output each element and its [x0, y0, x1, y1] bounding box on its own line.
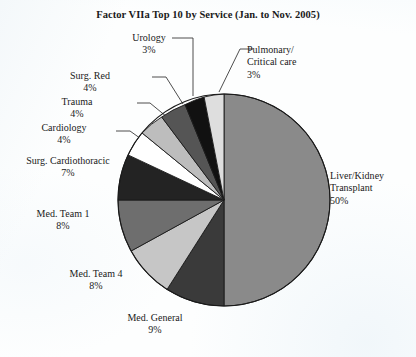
leader-line-surg-red	[152, 77, 183, 104]
pie-label-med-general-name: Med. General	[90, 312, 220, 324]
pie-label-med-team-1: Med. Team 1 8%	[8, 208, 118, 233]
pie-label-pulmonary-line1: Pulmonary/	[247, 44, 357, 56]
pie-label-med-team-1-name: Med. Team 1	[8, 208, 118, 220]
pie-label-cardiology-name: Cardiology	[8, 122, 120, 134]
chart-page: Factor VIIa Top 10 by Service (Jan. to N…	[0, 0, 416, 357]
pie-label-liver-kidney-value: 50%	[330, 195, 416, 207]
pie-label-med-general: Med. General 9%	[90, 312, 220, 337]
pie-label-urology-value: 3%	[106, 44, 192, 56]
pie-label-urology-name: Urology	[106, 32, 192, 44]
pie-label-pulmonary-line2: Critical care	[247, 56, 357, 68]
pie-label-med-general-value: 9%	[90, 324, 220, 336]
pie-label-med-team-1-value: 8%	[8, 220, 118, 232]
pie-label-surg-red-value: 4%	[34, 82, 146, 94]
pie-label-pulmonary-value: 3%	[247, 69, 357, 81]
pie-label-pulmonary-critical-care: Pulmonary/ Critical care 3%	[247, 44, 357, 81]
pie-label-cardiology: Cardiology 4%	[8, 122, 120, 147]
pie-label-med-team-4-name: Med. Team 4	[40, 268, 152, 280]
pie-label-liver-kidney-line1: Liver/Kidney	[330, 170, 416, 182]
pie-label-med-team-4: Med. Team 4 8%	[40, 268, 152, 293]
pie-slice-liver-kidney-transplant[interactable]	[224, 94, 330, 306]
pie-label-cardiology-value: 4%	[8, 134, 120, 146]
pie-label-urology: Urology 3%	[106, 32, 192, 57]
pie-label-surg-cardiothoracic-value: 7%	[0, 167, 136, 179]
pie-label-trauma: Trauma 4%	[26, 96, 128, 121]
pie-label-surg-red-name: Surg. Red	[34, 70, 146, 82]
pie-label-trauma-value: 4%	[26, 108, 128, 120]
pie-label-surg-cardiothoracic-name: Surg. Cardiothoracic	[0, 155, 136, 167]
pie-label-trauma-name: Trauma	[26, 96, 128, 108]
pie-label-surg-cardiothoracic: Surg. Cardiothoracic 7%	[0, 155, 136, 180]
pie-label-surg-red: Surg. Red 4%	[34, 70, 146, 95]
pie-label-med-team-4-value: 8%	[40, 280, 152, 292]
pie-label-liver-kidney-transplant: Liver/Kidney Transplant 50%	[330, 170, 416, 207]
pie-label-liver-kidney-line2: Transplant	[330, 182, 416, 194]
leader-line-trauma	[137, 103, 167, 117]
